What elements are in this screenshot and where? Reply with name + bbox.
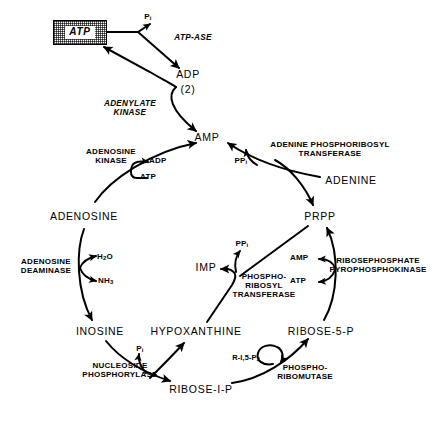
cofactor-ppi-adenine-base: PP: [235, 156, 246, 165]
arrow-adp-to-atp: [104, 47, 176, 87]
cofactor-r15p2-subscript: 2: [257, 356, 260, 362]
cofactor-inorganic-phosphate-nucleoside-phosphorylase: Pi: [136, 345, 143, 354]
arrow-adenosine-to-inosine: [79, 229, 92, 320]
cofactor-atp-pyrophosphokinase: ATP: [290, 277, 306, 286]
arrow-atp-to-pi: [107, 24, 150, 32]
arrow-atp-to-adp: [138, 32, 179, 68]
metabolite-hypoxanthine: HYPOXANTHINE: [150, 326, 241, 338]
metabolite-imp: IMP: [196, 262, 217, 274]
enzyme-phospho-ribomutase: PHOSPHO- RIBOMUTASE: [277, 364, 333, 382]
cofactor-adp-adenosine-kinase: ADP: [149, 157, 167, 166]
metabolite-adenosine: ADENOSINE: [50, 211, 118, 223]
enzyme-adenosine-kinase-line-2: KINASE: [86, 157, 136, 166]
cofactor-ribose-1-5-bisphosphate: R-I,5-P2: [232, 354, 260, 362]
cofactor-pyrophosphate-adenine-prt: PPi: [235, 157, 248, 166]
enzyme-hgprt-line-3: TRANSFERASE: [233, 291, 296, 300]
enzyme-adenylate-kinase-line-1: ADENYLATE: [104, 99, 156, 108]
cofactor-ammonia: NH3: [98, 277, 113, 286]
cofactor-ppi-adenine-subscript: i: [246, 159, 248, 165]
cofactor-r15p2-base: R-I,5-P: [232, 353, 256, 362]
enzyme-adenylate-kinase: ADENYLATE KINASE: [104, 99, 156, 117]
cofactor-atp-adenosine-kinase: ATP: [140, 173, 156, 182]
enzyme-atp-ase: ATP-ASE: [174, 33, 211, 42]
enzyme-adenosine-kinase: ADENOSINE KINASE: [86, 148, 136, 166]
arrow-ppi-imp: [235, 251, 240, 272]
enzyme-adenosine-deaminase-line-2: DEAMINASE: [21, 267, 71, 276]
cofactor-pi-subscript: i: [150, 15, 152, 21]
enzyme-adenine-prt-line-2: TRANSFERASE: [270, 150, 389, 159]
arrow-hypoxanthine-to-imp: [207, 269, 235, 322]
metabolite-inosine: INOSINE: [76, 326, 124, 338]
enzyme-phosphoribosyl-transferase: PHOSPHO- RIBOSYL TRANSFERASE: [233, 273, 296, 300]
metabolite-adp: ADP: [176, 69, 200, 81]
cofactor-amp-pyrophosphokinase: AMP: [290, 254, 308, 263]
enzyme-adenosine-deaminase: ADENOSINE DEAMINASE: [21, 258, 71, 276]
enzyme-adenylate-kinase-line-2: KINASE: [104, 108, 156, 117]
arrow-h2o-in: [80, 256, 96, 268]
metabolite-atp-boxed: ATP: [53, 20, 107, 45]
cofactor-nh3-subscript: 3: [110, 279, 114, 285]
metabolite-atp-label: ATP: [65, 26, 94, 39]
enzyme-nucleoside-phosphorylase: NUCLEOSIDE PHOSPHORYLASE: [82, 362, 157, 380]
cofactor-water: H2O: [97, 253, 113, 262]
arrow-prpp-to-imp-branch: [240, 226, 308, 276]
metabolite-ribose-1-phosphate: RIBOSE-I-P: [169, 384, 233, 396]
enzyme-rpk-line-2: PYROPHOSPHOKINASE: [329, 266, 426, 275]
enzyme-nucleoside-phosphorylase-line-2: PHOSPHORYLASE: [82, 371, 157, 380]
pathway-diagram: ATP ADP (2) AMP ADENINE ADENOSINE PRPP I…: [0, 0, 442, 422]
metabolite-adp-stoichiometry: (2): [181, 84, 196, 96]
cofactor-pyrophosphate-hgprt: PPi: [236, 240, 249, 249]
cofactor-pi-np-subscript: i: [142, 347, 144, 353]
metabolite-adenine: ADENINE: [325, 175, 377, 187]
cofactor-inorganic-phosphate-atpase: Pi: [144, 13, 151, 22]
loop-r15p2: [258, 345, 283, 364]
metabolite-ribose-5-phosphate: RIBOSE-5-P: [288, 326, 355, 338]
metabolite-amp: AMP: [195, 132, 220, 144]
cofactor-h2o-suffix: O: [106, 252, 112, 261]
cofactor-ppi-imp-subscript: i: [247, 242, 249, 248]
metabolite-prpp: PRPP: [304, 211, 335, 223]
cofactor-ppi-imp-base: PP: [236, 239, 247, 248]
enzyme-phosphoribomutase-line-2: RIBOMUTASE: [277, 373, 333, 382]
arrow-nh3-out: [80, 268, 96, 281]
enzyme-adenine-phosphoribosyl-transferase: ADENINE PHOSPHORIBOSYL TRANSFERASE: [270, 141, 389, 159]
enzyme-ribosephosphate-pyrophosphokinase: RIBOSEPHOSPHATE PYROPHOSPHOKINASE: [329, 257, 426, 275]
cofactor-nh3-base: NH: [98, 276, 110, 285]
